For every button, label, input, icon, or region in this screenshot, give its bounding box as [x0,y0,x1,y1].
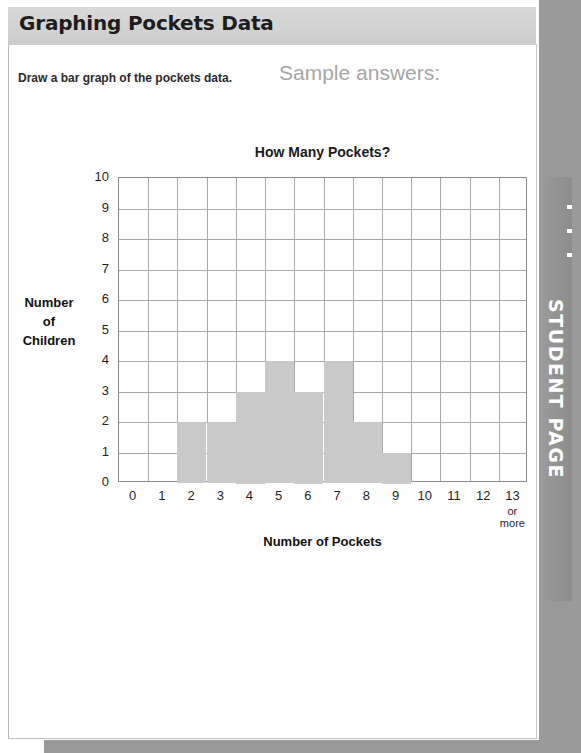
tab-notch [567,205,572,209]
page-backdrop-corner [0,745,44,753]
bar [265,361,294,483]
bar [382,453,411,484]
student-page-tab-label: STUDENT PAGE [545,299,567,479]
tab-notch [567,253,572,257]
bar [324,361,353,483]
x-axis-tick-label: 13 [497,488,527,503]
page-border-bottom [8,738,537,739]
tab-notch [567,229,572,233]
chart-bars [119,178,526,481]
y-axis-tick-label: 9 [85,200,109,215]
bar [177,422,206,483]
y-axis-tick-label: 8 [85,230,109,245]
y-axis-title-line: of [8,312,90,331]
bar [294,392,323,484]
x-axis-tick-label: 10 [410,488,440,503]
y-axis-tick-label: 0 [85,474,109,489]
x-axis-tick-label: 1 [147,488,177,503]
x-axis-tick-label: 5 [264,488,294,503]
y-axis-title-line: Number [8,293,90,312]
instruction-text: Draw a bar graph of the pockets data. [18,71,232,85]
y-axis-tick-label: 10 [85,169,109,184]
y-axis-title: NumberofChildren [8,293,90,350]
x-axis-tick-label: 9 [381,488,411,503]
y-axis-title-line: Children [8,331,90,350]
y-axis-tick-label: 2 [85,413,109,428]
y-axis-tick-label: 4 [85,352,109,367]
y-axis-tick-label: 3 [85,383,109,398]
y-axis-tick-label: 1 [85,444,109,459]
bar [207,422,236,483]
bar-chart-plot-area [118,177,527,482]
worksheet-page: Graphing Pockets Data Draw a bar graph o… [0,0,581,753]
x-axis-title: Number of Pockets [118,534,527,549]
x-axis-tick-label: 3 [205,488,235,503]
sample-answers-note: Sample answers: [279,61,440,85]
page-border-right [536,44,537,739]
student-page-tab: STUDENT PAGE [540,177,572,601]
x-axis-tick-label: 11 [439,488,469,503]
x-axis-tick-label: 2 [176,488,206,503]
chart-title: How Many Pockets? [118,144,527,160]
x-axis-tick-label: 0 [118,488,148,503]
page-backdrop-bottom [44,738,581,753]
bar [353,422,382,483]
x-axis-tick-label: 7 [322,488,352,503]
x-axis-tick-label: 6 [293,488,323,503]
page-border-left [8,44,9,739]
y-axis-tick-label: 7 [85,261,109,276]
x-axis-tick-label: 4 [234,488,264,503]
bar [236,392,265,484]
x-axis-tick-label: 8 [351,488,381,503]
page-title: Graphing Pockets Data [19,11,274,35]
x-axis-tick-label: 12 [468,488,498,503]
x-axis-tick-sublabel: ormore [492,505,532,529]
